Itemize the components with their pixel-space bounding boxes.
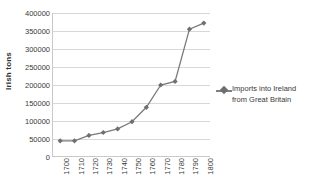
x-axis-tick-label: 1750 [134,158,143,192]
legend-entry: Imports into Ireland from Great Britain [216,84,310,105]
data-point-marker [72,138,77,143]
legend-marker-icon [216,85,232,96]
data-point-marker [172,79,177,84]
chart-legend: Imports into Ireland from Great Britain [216,84,310,105]
y-axis-tick-label: 250000 [6,63,50,72]
y-axis-tick-label: 150000 [6,99,50,108]
x-axis-tick-label: 1760 [148,158,157,192]
data-point-marker [101,130,106,135]
legend-label-line2: from Great Britain [232,95,291,104]
y-axis-tick-label: 100000 [6,117,50,126]
y-axis-tick-label: 400000 [6,9,50,18]
x-axis-tick-label: 1800 [206,158,215,192]
data-point-marker [201,20,206,25]
y-axis-tick-label: 0 [6,153,50,162]
y-axis-tick-label: 200000 [6,81,50,90]
y-axis-tick-label: 350000 [6,27,50,36]
y-axis-tick-labels: 0500001000001500002000002500003000003500… [6,8,50,162]
y-axis-tick-label: 300000 [6,45,50,54]
legend-entry-label: Imports into Ireland from Great Britain [232,84,296,105]
y-axis-tick-label: 50000 [6,135,50,144]
line-chart: Irish tons 05000010000015000020000025000… [0,0,310,196]
plot-area [52,13,210,157]
data-point-marker [187,27,192,32]
x-axis-tick-label: 1740 [120,158,129,192]
x-axis-tick-label: 1730 [105,158,114,192]
x-axis-tick-label: 1720 [91,158,100,192]
x-axis-tick-label: 1790 [191,158,200,192]
x-axis-tick-label: 1710 [77,158,86,192]
x-axis-tick-labels: 1700171017201730174017501760177017801790… [52,158,210,196]
series-plot [53,13,211,157]
legend-label-line1: Imports into Ireland [232,84,296,93]
data-point-marker [86,133,91,138]
data-point-marker [115,126,120,131]
x-axis-tick-label: 1700 [62,158,71,192]
data-point-marker [58,138,63,143]
x-axis-tick-label: 1780 [177,158,186,192]
x-axis-tick-label: 1770 [163,158,172,192]
